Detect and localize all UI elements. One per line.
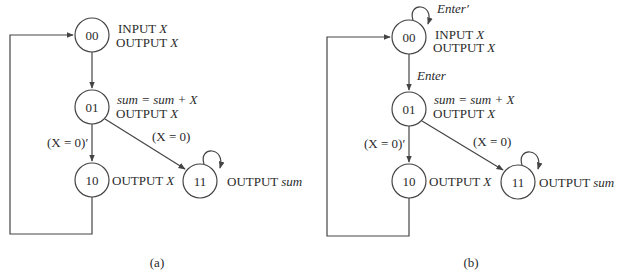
condition-enter: Enter (416, 68, 447, 83)
panel-b: 00 01 10 11 Enter′ INPUT X OUTPUT X Ente… (327, 1, 614, 270)
state-diagram-figure: 00 01 10 11 INPUT X OUTPUT X sum = sum +… (0, 0, 620, 278)
condition-x-zero: (X = 0) (152, 129, 190, 144)
state-01: 01 (75, 90, 109, 124)
state-code: 11 (194, 174, 207, 189)
state-01: 01 (392, 92, 426, 126)
state-00-action-output: OUTPUT X (116, 35, 179, 50)
state-code: 00 (403, 30, 416, 45)
state-00-action-output: OUTPUT X (433, 40, 496, 55)
state-code: 01 (86, 100, 99, 115)
state-10-action-output: OUTPUT X (429, 174, 492, 189)
condition-x-not-zero: (X = 0)′ (47, 135, 88, 150)
state-01-action-output: OUTPUT X (116, 106, 179, 121)
state-code: 11 (512, 175, 525, 190)
state-01-action-output: OUTPUT X (433, 106, 496, 121)
caption-a: (a) (150, 255, 164, 270)
state-10: 10 (75, 163, 109, 197)
state-10-action-output: OUTPUT X (112, 173, 175, 188)
edge-01-to-11 (105, 119, 185, 169)
state-code: 10 (86, 173, 99, 188)
caption-b: (b) (463, 255, 478, 270)
state-01-action-sum: sum = sum + X (434, 92, 515, 107)
state-code: 10 (403, 174, 416, 189)
panel-a: 00 01 10 11 INPUT X OUTPUT X sum = sum +… (10, 18, 302, 270)
state-00: 00 (392, 20, 426, 54)
state-11-action-output: OUTPUT sum (227, 174, 302, 189)
state-10: 10 (392, 164, 426, 198)
state-11-action-output: OUTPUT sum (539, 175, 614, 190)
condition-x-not-zero: (X = 0)′ (364, 136, 405, 151)
state-01-action-sum: sum = sum + X (117, 92, 198, 107)
condition-x-zero: (X = 0) (473, 134, 511, 149)
state-code: 01 (403, 102, 416, 117)
state-00: 00 (75, 18, 109, 52)
condition-enter-not: Enter′ (436, 1, 469, 16)
state-00-action-input: INPUT X (118, 21, 168, 36)
state-code: 00 (86, 28, 99, 43)
state-11: 11 (501, 165, 535, 199)
state-11: 11 (183, 164, 217, 198)
